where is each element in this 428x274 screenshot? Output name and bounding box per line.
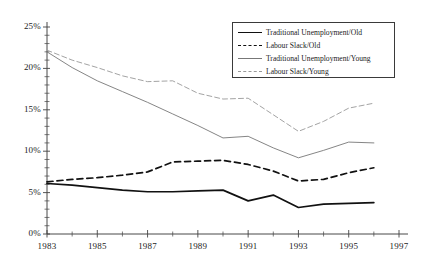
series-line xyxy=(47,183,374,207)
legend-item-label: Labour Slack/Old xyxy=(266,41,320,50)
y-axis-label: 10% xyxy=(7,145,41,155)
x-axis-label: 1995 xyxy=(329,241,369,251)
y-axis-label: 20% xyxy=(7,62,41,72)
y-axis-label: 15% xyxy=(7,104,41,114)
legend-line-swatch-icon xyxy=(237,66,263,78)
legend-item: Traditional Unemployment/Young xyxy=(237,52,394,65)
x-axis-label: 1989 xyxy=(178,241,218,251)
legend-item: Traditional Unemployment/Old xyxy=(237,26,394,39)
legend-line-swatch-icon xyxy=(237,53,263,65)
y-axis-label: 5% xyxy=(7,187,41,197)
x-axis-label: 1991 xyxy=(228,241,268,251)
line-chart: 25%20%15%10%5%0% 19831985198719891991199… xyxy=(0,0,428,274)
x-axis-label: 1987 xyxy=(128,241,168,251)
y-axis-label: 25% xyxy=(7,21,41,31)
x-axis-label: 1985 xyxy=(77,241,117,251)
series-line xyxy=(47,160,374,182)
legend-item-label: Traditional Unemployment/Old xyxy=(266,28,362,37)
legend-item-label: Labour Slack/Young xyxy=(266,67,329,76)
y-axis-label: 0% xyxy=(7,228,41,238)
x-axis-label: 1983 xyxy=(27,241,67,251)
x-axis-label: 1997 xyxy=(379,241,419,251)
legend-line-swatch-icon xyxy=(237,27,263,39)
legend-line-swatch-icon xyxy=(237,40,263,52)
legend-item: Labour Slack/Old xyxy=(237,39,394,52)
legend-item-label: Traditional Unemployment/Young xyxy=(266,54,371,63)
chart-legend: Traditional Unemployment/OldLabour Slack… xyxy=(232,22,395,78)
x-axis-label: 1993 xyxy=(278,241,318,251)
legend-item: Labour Slack/Young xyxy=(237,65,394,78)
